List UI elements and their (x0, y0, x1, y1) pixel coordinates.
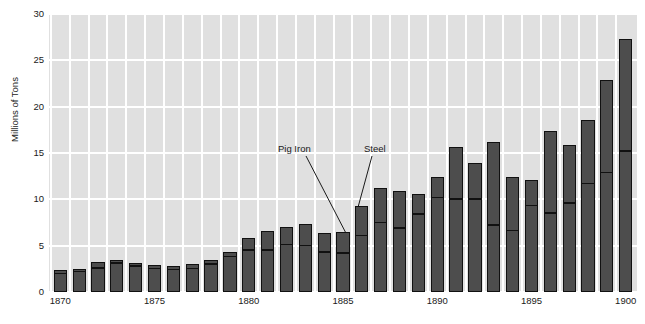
bar-1875 (148, 265, 161, 292)
bar-steel-divider-1881 (262, 249, 273, 251)
bar-steel-divider-1897 (564, 202, 575, 204)
annotation-label-steel: Steel (364, 144, 386, 154)
x-axis-tick-label: 1875 (135, 296, 175, 306)
bar-1894 (506, 177, 519, 292)
bar-1893 (487, 142, 500, 292)
bar-1877 (186, 264, 199, 292)
x-axis-tick-label: 1870 (40, 296, 80, 306)
bar-steel-divider-1878 (205, 263, 216, 265)
y-axis-tick-label: 5 (22, 241, 44, 251)
bar-1871 (73, 269, 86, 292)
y-axis-tick-label: 10 (22, 194, 44, 204)
bar-1879 (223, 252, 236, 292)
bar-steel-divider-1885 (337, 252, 348, 254)
y-axis-tick-label: 15 (22, 148, 44, 158)
bar-steel-divider-1887 (375, 222, 386, 224)
bar-steel-divider-1880 (243, 249, 254, 251)
bar-1874 (129, 263, 142, 292)
bar-steel-divider-1870 (55, 273, 66, 275)
bar-1899 (600, 80, 613, 292)
bar-1898 (581, 120, 594, 292)
bar-1892 (468, 163, 481, 292)
bar-steel-divider-1883 (300, 245, 311, 247)
bar-1884 (318, 233, 331, 292)
bar-steel-divider-1877 (187, 268, 198, 270)
y-axis-tick-label: 30 (22, 9, 44, 19)
bar-1881 (261, 231, 274, 292)
x-axis-tick-label: 1885 (323, 296, 363, 306)
bar-1896 (544, 131, 557, 292)
x-axis-tick-label: 1890 (417, 296, 457, 306)
bar-steel-divider-1891 (450, 198, 461, 200)
bar-1888 (393, 191, 406, 292)
bar-1878 (204, 260, 217, 292)
bar-1876 (167, 266, 180, 292)
bar-1887 (374, 188, 387, 292)
bar-steel-divider-1894 (507, 230, 518, 232)
bar-1882 (280, 227, 293, 292)
bar-1885 (336, 232, 349, 292)
bar-steel-divider-1893 (488, 224, 499, 226)
chart-container: Millions of Tons 051015202530 Pig IronSt… (0, 0, 645, 324)
annotation-label-pig-iron: Pig Iron (278, 144, 311, 154)
bar-steel-divider-1882 (281, 244, 292, 246)
bar-steel-divider-1879 (224, 256, 235, 258)
x-axis-tick-label: 1900 (606, 296, 645, 306)
bar-1886 (355, 206, 368, 292)
y-axis-tick-label: 20 (22, 102, 44, 112)
bar-1890 (431, 177, 444, 292)
x-axis-tick-label: 1895 (511, 296, 551, 306)
bar-steel-divider-1884 (319, 251, 330, 253)
bar-1873 (110, 260, 123, 292)
x-axis-tick-label: 1880 (229, 296, 269, 306)
bar-steel-divider-1900 (620, 150, 631, 152)
bar-1895 (525, 180, 538, 292)
bar-steel-divider-1892 (469, 198, 480, 200)
bar-steel-divider-1888 (394, 227, 405, 229)
y-axis-tick-label: 25 (22, 55, 44, 65)
bar-1897 (563, 145, 576, 292)
bar-steel-divider-1871 (74, 271, 85, 273)
bar-1891 (449, 147, 462, 292)
bar-steel-divider-1876 (168, 269, 179, 271)
bar-steel-divider-1872 (92, 267, 103, 269)
bar-steel-divider-1899 (601, 172, 612, 174)
bar-1883 (299, 224, 312, 292)
bar-1880 (242, 238, 255, 292)
bar-1900 (619, 39, 632, 292)
bar-steel-divider-1896 (545, 212, 556, 214)
bar-steel-divider-1895 (526, 205, 537, 207)
bar-steel-divider-1886 (356, 235, 367, 237)
bar-steel-divider-1898 (582, 183, 593, 185)
bar-steel-divider-1875 (149, 268, 160, 270)
bar-steel-divider-1873 (111, 262, 122, 264)
bar-1872 (91, 262, 104, 292)
bar-steel-divider-1889 (413, 213, 424, 215)
bar-steel-divider-1890 (432, 197, 443, 199)
bar-1870 (54, 270, 67, 292)
bar-steel-divider-1874 (130, 265, 141, 267)
bar-1889 (412, 194, 425, 292)
